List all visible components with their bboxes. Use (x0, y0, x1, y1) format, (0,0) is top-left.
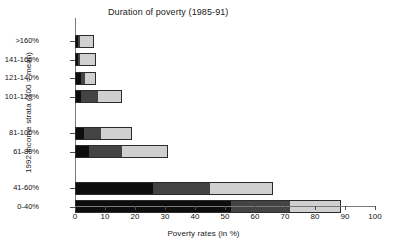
y-tick-label: >160% (15, 36, 39, 45)
y-tick-mark (70, 188, 75, 189)
y-tick-mark (70, 133, 75, 134)
x-tick-mark (195, 206, 196, 210)
bar-81-100 (75, 127, 132, 140)
x-tick-mark (375, 206, 376, 210)
bar-160 (75, 35, 94, 48)
y-tick-mark (70, 78, 75, 79)
bar-segment-short-duration (122, 145, 169, 158)
y-tick-label: 81-100% (9, 128, 39, 137)
bar-61-80 (75, 145, 168, 158)
bar-segment-long-duration (75, 182, 153, 195)
x-tick-mark (105, 206, 106, 210)
x-tick-label: 60 (251, 212, 260, 221)
bar-segment-medium-duration (153, 182, 210, 195)
x-axis-title: Poverty rates (in %) (0, 229, 407, 238)
y-tick-mark (70, 152, 75, 153)
x-tick-label: 80 (311, 212, 320, 221)
x-tick-label: 0 (73, 212, 77, 221)
bar-segment-medium-duration (89, 145, 122, 158)
x-tick-mark (315, 206, 316, 210)
x-tick-mark (285, 206, 286, 210)
bar-segment-short-duration (85, 72, 96, 85)
y-tick-label: 61-80% (13, 147, 39, 156)
bar-segment-medium-duration (84, 127, 101, 140)
y-axis-title: 1992 income strata (100 = mean) (24, 23, 33, 203)
chart-title: Duration of poverty (1985-91) (108, 7, 228, 17)
x-tick-mark (165, 206, 166, 210)
poverty-duration-chart: Duration of poverty (1985-91) 1992 incom… (0, 0, 407, 250)
x-tick-label: 50 (221, 212, 230, 221)
y-tick-label: 121-140% (5, 73, 39, 82)
x-tick-mark (135, 206, 136, 210)
bar-121-140 (75, 72, 96, 85)
bar-segment-medium-duration (81, 90, 98, 103)
x-tick-mark (255, 206, 256, 210)
x-tick-mark (225, 206, 226, 210)
x-tick-label: 20 (131, 212, 140, 221)
bar-segment-short-duration (80, 53, 96, 66)
y-tick-label: 101-120% (5, 92, 39, 101)
bar-segment-short-duration (101, 127, 133, 140)
bar-segment-long-duration (75, 127, 84, 140)
y-tick-mark (70, 41, 75, 42)
bar-41-60 (75, 182, 273, 195)
x-tick-mark (75, 206, 76, 210)
x-tick-label: 40 (191, 212, 200, 221)
bar-141-160 (75, 53, 96, 66)
bar-segment-short-duration (80, 35, 94, 48)
x-tick-mark (345, 206, 346, 210)
y-tick-label: 141-160% (5, 55, 39, 64)
y-tick-mark (70, 60, 75, 61)
bar-101-120 (75, 90, 122, 103)
x-tick-label: 10 (101, 212, 110, 221)
bar-segment-long-duration (75, 145, 89, 158)
y-tick-label: 0-40% (17, 202, 39, 211)
x-tick-label: 90 (341, 212, 350, 221)
plot-area: >160%141-160%121-140%101-120%81-100%61-8… (75, 18, 375, 206)
x-tick-label: 70 (281, 212, 290, 221)
y-tick-mark (70, 97, 75, 98)
x-tick-label: 100 (368, 212, 381, 221)
bar-segment-short-duration (98, 90, 122, 103)
x-tick-label: 30 (161, 212, 170, 221)
bar-segment-short-duration (210, 182, 273, 195)
y-tick-label: 41-60% (13, 183, 39, 192)
